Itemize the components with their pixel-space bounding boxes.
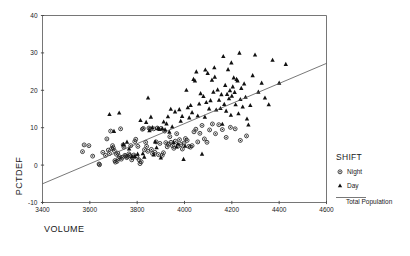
legend-marker-circle-core-icon (339, 171, 341, 173)
plot-canvas: -100102030403400360038004000420044004600… (0, 0, 410, 256)
data-point-night-core-46 (143, 128, 145, 130)
data-point-day-69 (223, 83, 227, 87)
data-point-night-core-10 (109, 153, 111, 155)
data-point-night-core-96 (225, 137, 227, 139)
data-point-day-74 (228, 88, 232, 92)
data-point-night-core-77 (182, 148, 184, 150)
data-point-night-core-1 (83, 144, 85, 146)
data-point-night-core-93 (215, 133, 217, 135)
data-point-night-core-92 (212, 123, 214, 125)
data-point-night-core-27 (123, 146, 125, 148)
data-point-day-42 (187, 115, 191, 119)
x-tick-label-2: 3800 (130, 206, 145, 213)
data-point-night-core-49 (146, 146, 148, 148)
data-point-day-63 (217, 98, 221, 102)
x-tick-label-1: 3600 (83, 206, 98, 213)
data-point-night-core-95 (222, 129, 224, 131)
data-point-day-50 (198, 91, 202, 95)
data-point-night-core-83 (191, 145, 193, 147)
data-point-day-104 (229, 60, 233, 64)
data-point-day-101 (284, 62, 288, 66)
data-point-night-core-50 (147, 151, 149, 153)
y-tick-label-4: 30 (30, 49, 38, 56)
data-point-day-97 (263, 95, 267, 99)
data-point-day-56 (207, 106, 211, 110)
data-point-day-96 (259, 81, 263, 85)
data-point-day-102 (203, 67, 207, 71)
data-point-day-99 (270, 58, 274, 62)
data-point-day-36 (179, 119, 183, 123)
y-tick-label-1: 0 (34, 162, 38, 169)
y-tick-label-5: 40 (30, 12, 38, 19)
data-point-night-core-80 (186, 140, 188, 142)
x-tick-label-3: 4000 (177, 206, 192, 213)
data-point-night-core-0 (82, 151, 84, 153)
regression-line (43, 63, 327, 183)
data-point-day-65 (219, 92, 223, 96)
data-point-day-13 (146, 95, 150, 99)
data-point-night-core-91 (209, 129, 211, 131)
data-point-day-2 (117, 110, 121, 114)
data-point-night-core-19 (116, 161, 118, 163)
data-point-night-core-75 (179, 139, 181, 141)
data-point-night-core-90 (206, 142, 208, 144)
data-point-day-37 (180, 114, 184, 118)
y-tick-label-2: 10 (30, 124, 38, 131)
data-point-night-core-8 (106, 138, 108, 140)
legend-label-night: Night (347, 168, 362, 176)
legend-label-total-population: Total Population (346, 198, 393, 206)
legend-item-total-population[interactable]: Total Population (336, 198, 393, 206)
data-point-day-47 (194, 69, 198, 73)
data-point-day-91 (246, 122, 250, 126)
data-point-day-19 (154, 145, 158, 149)
data-point-day-88 (242, 81, 246, 85)
data-point-night-core-69 (170, 142, 172, 144)
x-tick-label-0: 3400 (35, 206, 50, 213)
axis-titles: PCTDEFVOLUME (14, 157, 84, 234)
data-point-day-90 (245, 116, 249, 120)
data-point-day-57 (208, 98, 212, 102)
data-point-night-core-68 (169, 136, 171, 138)
data-point-day-35 (177, 107, 181, 111)
y-axis-title: PCTDEF (14, 157, 24, 196)
plot-frame (43, 16, 327, 203)
data-point-night-core-63 (163, 152, 165, 154)
data-point-night-core-44 (140, 161, 142, 163)
data-point-night-core-86 (197, 141, 199, 143)
data-point-night-core-87 (199, 133, 201, 135)
y-tick-label-0: -10 (28, 199, 38, 206)
data-point-night-core-85 (195, 128, 197, 130)
data-point-night-core-60 (159, 143, 161, 145)
data-point-day-59 (211, 90, 215, 94)
total-population-fit-line (43, 63, 327, 183)
data-point-night-core-98 (234, 128, 236, 130)
data-point-day-40 (184, 88, 188, 92)
data-point-day-9 (138, 118, 142, 122)
data-point-day-67 (221, 54, 225, 58)
x-axis-title: VOLUME (44, 224, 84, 234)
data-point-night-core-97 (230, 127, 232, 129)
data-point-night-core-71 (173, 148, 175, 150)
data-point-day-103 (212, 65, 216, 69)
x-tick-label-6: 4600 (319, 206, 334, 213)
data-point-night-core-76 (180, 144, 182, 146)
data-point-night-core-99 (240, 140, 242, 142)
data-point-night-core-94 (218, 124, 220, 126)
x-tick-label-5: 4400 (272, 206, 287, 213)
data-point-night-core-11 (110, 130, 112, 132)
data-point-night-core-3 (92, 155, 94, 157)
legend-item-day[interactable]: Day (338, 182, 360, 190)
data-point-night-core-33 (129, 155, 131, 157)
data-point-day-93 (250, 73, 254, 77)
data-point-day-4 (125, 140, 129, 144)
legend-title: SHIFT (336, 152, 362, 162)
legend-item-night[interactable]: Night (338, 168, 362, 176)
data-point-night-core-15 (113, 150, 115, 152)
data-point-day-78 (232, 75, 236, 79)
data-point-day-38 (181, 157, 185, 161)
data-point-day-83 (236, 111, 240, 115)
data-point-night-core-20 (117, 152, 119, 154)
data-point-day-49 (197, 101, 201, 105)
data-point-night-core-100 (246, 135, 248, 137)
data-point-day-68 (222, 102, 226, 106)
